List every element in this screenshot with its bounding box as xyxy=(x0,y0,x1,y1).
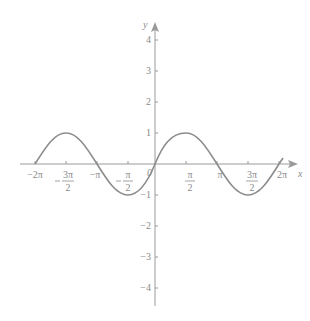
x-tick-p3pi2-den: 2 xyxy=(250,182,255,193)
x-axis-label: x xyxy=(297,168,303,179)
sine-chart: x y 0 −2π 3π 2 −π π 2 π 2 π 3π 2 2π 4 3 … xyxy=(0,0,310,321)
x-tick-mpi: −π xyxy=(90,169,101,180)
y-tick-m1: −1 xyxy=(140,189,151,200)
x-tick-pi2-num: π xyxy=(187,169,192,180)
x-tick-m3pi2-num: 3π xyxy=(63,169,73,180)
x-tick-mpi2-den: 2 xyxy=(126,182,131,193)
y-tick-m2: −2 xyxy=(140,220,151,231)
y-tick-m3: −3 xyxy=(140,251,151,262)
x-tick-m2pi: −2π xyxy=(27,169,43,180)
y-tick-4: 4 xyxy=(146,34,151,45)
origin-label: 0 xyxy=(147,167,152,178)
y-tick-3: 3 xyxy=(146,65,151,76)
y-tick-2: 2 xyxy=(146,96,151,107)
x-tick-m3pi2-den: 2 xyxy=(66,182,71,193)
axes xyxy=(20,28,292,306)
x-tick-p3pi2-num: 3π xyxy=(247,169,257,180)
y-tick-1: 1 xyxy=(146,127,151,138)
x-tick-pi: π xyxy=(217,169,222,180)
x-tick-pi2-den: 2 xyxy=(188,182,193,193)
sine-curve-tail xyxy=(279,158,283,164)
x-tick-p2pi: 2π xyxy=(277,169,287,180)
x-tick-mpi2-num: π xyxy=(125,169,130,180)
y-tick-m4: −4 xyxy=(140,282,151,293)
y-axis-label: y xyxy=(142,19,148,30)
